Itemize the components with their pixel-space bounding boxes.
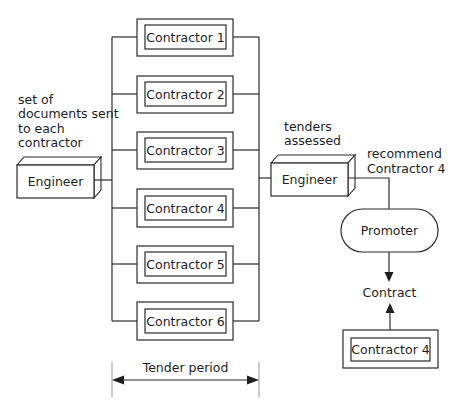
engineer-left-label: Engineer — [28, 174, 85, 189]
contractor-5-node: Contractor 5 — [112, 246, 259, 283]
contractor-label: Contractor 5 — [146, 257, 225, 272]
promoter-node: Promoter — [341, 209, 438, 252]
contractor-label: Contractor 6 — [146, 314, 225, 329]
engineer-right-node: Engineer — [271, 155, 355, 196]
annotation-line: recommend — [367, 146, 442, 161]
engineer-right-side-face — [348, 155, 355, 196]
annotation-line: to each — [18, 121, 65, 136]
annotation-line: assessed — [284, 133, 341, 148]
engineer-left-top-face — [17, 157, 101, 165]
tender-period-label: Tender period — [142, 360, 229, 375]
awarded-contractor-label: Contractor 4 — [351, 342, 430, 357]
engineer-right-label: Engineer — [282, 172, 339, 187]
tenders-assessed-annotation: tenders assessed — [284, 119, 341, 148]
arrow-up-icon — [386, 303, 395, 313]
contractor-1-node: Contractor 1 — [112, 19, 259, 56]
contractor-label: Contractor 3 — [146, 143, 225, 158]
contract-label: Contract — [363, 285, 417, 300]
contractor-label: Contractor 4 — [146, 201, 225, 216]
arrow-contractor-to-contract — [386, 303, 395, 330]
annotation-line: set of — [18, 92, 54, 107]
arrow-down-icon — [385, 272, 394, 282]
contractor-6-node: Contractor 6 — [112, 302, 259, 340]
engineer-left-node: Engineer — [17, 157, 101, 198]
tender-process-diagram: set of documents sent to each contractor… — [0, 0, 455, 411]
annotation-line: contractor — [18, 135, 84, 150]
recommend-annotation: recommend Contractor 4 — [367, 146, 446, 176]
annotation-line: Contractor 4 — [367, 161, 446, 176]
awarded-contractor-node: Contractor 4 — [343, 330, 438, 368]
arrow-promoter-to-contract — [385, 252, 394, 282]
documents-sent-annotation: set of documents sent to each contractor — [18, 92, 119, 150]
contractor-label: Contractor 2 — [146, 87, 225, 102]
contractor-4-node: Contractor 4 — [112, 189, 259, 227]
contractor-2-node: Contractor 2 — [112, 76, 259, 113]
annotation-line: documents sent — [18, 106, 119, 121]
arrow-right-icon — [247, 376, 259, 385]
contractor-3-node: Contractor 3 — [112, 132, 259, 169]
engineer-left-side-face — [94, 157, 101, 198]
tender-period-dimension: Tender period — [112, 360, 259, 397]
arrow-left-icon — [112, 376, 124, 385]
engineer-right-top-face — [271, 155, 355, 163]
contractor-label: Contractor 1 — [146, 30, 225, 45]
promoter-label: Promoter — [361, 223, 419, 238]
annotation-line: tenders — [284, 119, 332, 134]
